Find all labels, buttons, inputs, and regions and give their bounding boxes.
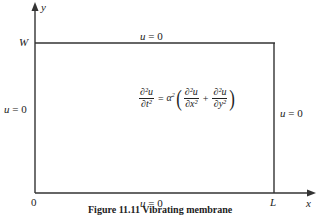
x-axis-label: x — [306, 198, 311, 209]
wave-equation: ∂²u ∂t² = α2 ( ∂²u ∂x² + ∂²u ∂y² ) — [138, 86, 236, 110]
l-tick-label: L — [270, 197, 276, 208]
lhs-fraction: ∂²u ∂t² — [139, 87, 154, 109]
x-term-fraction: ∂²u ∂x² — [184, 87, 199, 109]
origin-label: 0 — [31, 197, 37, 208]
x-axis-arrow-icon — [307, 190, 316, 197]
y-axis-label: y — [41, 2, 46, 13]
y-axis-arrow-icon — [32, 2, 39, 11]
left-boundary-condition: u = 0 — [4, 104, 27, 115]
w-tick-label: W — [19, 37, 28, 48]
figure-caption: Figure 11.11 Vibrating membrane — [88, 204, 232, 215]
right-boundary-condition: u = 0 — [280, 108, 303, 119]
top-boundary-condition: u = 0 — [140, 31, 163, 42]
alpha-coefficient: α2 — [167, 92, 175, 103]
y-term-fraction: ∂²u ∂y² — [212, 87, 227, 109]
